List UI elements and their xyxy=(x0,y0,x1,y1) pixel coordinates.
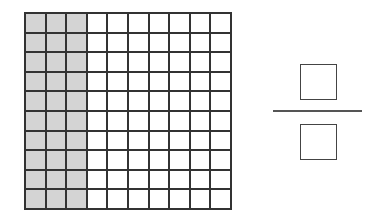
grid-cell xyxy=(87,111,108,131)
grid-cell xyxy=(128,72,149,92)
grid-cell xyxy=(210,131,231,151)
grid-cell-shaded xyxy=(46,33,67,53)
grid-cell xyxy=(190,13,211,33)
grid-cell xyxy=(128,170,149,190)
grid-cell-shaded xyxy=(66,13,87,33)
grid-cell-shaded xyxy=(25,189,46,209)
grid-cell-shaded xyxy=(46,91,67,111)
grid-cell-shaded xyxy=(66,72,87,92)
grid-cell xyxy=(149,33,170,53)
grid-cell xyxy=(107,111,128,131)
grid-cell-shaded xyxy=(66,52,87,72)
grid-cell xyxy=(169,170,190,190)
grid-cell xyxy=(87,131,108,151)
grid-cell-shaded xyxy=(46,150,67,170)
grid-cell-shaded xyxy=(25,150,46,170)
grid-cell-shaded xyxy=(66,91,87,111)
grid-cell xyxy=(169,189,190,209)
grid-cell xyxy=(87,33,108,53)
grid-cell xyxy=(190,111,211,131)
grid-cell xyxy=(149,170,170,190)
grid-cell xyxy=(128,33,149,53)
grid-cell xyxy=(169,131,190,151)
grid-cell-shaded xyxy=(66,150,87,170)
grid-cell xyxy=(169,72,190,92)
grid-cell xyxy=(87,52,108,72)
grid-cell-shaded xyxy=(25,13,46,33)
grid-cell xyxy=(87,72,108,92)
grid-cell xyxy=(107,33,128,53)
grid-cell xyxy=(190,91,211,111)
grid-cell xyxy=(149,150,170,170)
grid-cell xyxy=(128,13,149,33)
grid-cell-shaded xyxy=(66,131,87,151)
grid-cell xyxy=(107,170,128,190)
grid-cell-shaded xyxy=(25,52,46,72)
grid-cell xyxy=(210,111,231,131)
grid-cell xyxy=(128,131,149,151)
grid-cell xyxy=(190,189,211,209)
grid-cell xyxy=(149,189,170,209)
grid-cell xyxy=(87,189,108,209)
grid-cell xyxy=(169,13,190,33)
grid-cell xyxy=(87,170,108,190)
grid-cell xyxy=(107,150,128,170)
grid-cell xyxy=(87,150,108,170)
grid-cell xyxy=(190,52,211,72)
grid-cell xyxy=(87,91,108,111)
grid-cell xyxy=(210,72,231,92)
grid-cell xyxy=(210,170,231,190)
grid-cell-shaded xyxy=(66,189,87,209)
grid-cell xyxy=(149,13,170,33)
grid-cell xyxy=(169,150,190,170)
grid-cell xyxy=(169,111,190,131)
grid-cell xyxy=(107,52,128,72)
grid-cell xyxy=(87,13,108,33)
grid-cell xyxy=(190,72,211,92)
grid-cell xyxy=(190,131,211,151)
grid-cell-shaded xyxy=(25,170,46,190)
grid-cell xyxy=(190,150,211,170)
grid-cell-shaded xyxy=(66,170,87,190)
grid-cell xyxy=(128,91,149,111)
grid-cell-shaded xyxy=(46,189,67,209)
grid-cell xyxy=(149,52,170,72)
grid-cell xyxy=(107,189,128,209)
grid-cell xyxy=(128,189,149,209)
grid-cell xyxy=(169,91,190,111)
grid-cell xyxy=(149,131,170,151)
grid-cell-shaded xyxy=(46,13,67,33)
grid-cell xyxy=(210,13,231,33)
grid-cell-shaded xyxy=(46,131,67,151)
grid-cell xyxy=(190,33,211,53)
grid-cell-shaded xyxy=(25,72,46,92)
grid-cell xyxy=(107,131,128,151)
hundred-grid xyxy=(24,12,232,210)
grid-cell xyxy=(107,72,128,92)
numerator-input-box[interactable] xyxy=(300,64,337,100)
grid-cell-shaded xyxy=(25,91,46,111)
grid-cell xyxy=(210,150,231,170)
grid-cell xyxy=(107,91,128,111)
denominator-input-box[interactable] xyxy=(300,124,337,160)
grid-cell xyxy=(128,52,149,72)
grid-cell xyxy=(128,111,149,131)
grid-cell-shaded xyxy=(25,111,46,131)
grid-cell xyxy=(210,33,231,53)
grid-cell xyxy=(190,170,211,190)
fraction-bar xyxy=(273,110,362,112)
grid-cell-shaded xyxy=(66,33,87,53)
grid-cell xyxy=(169,52,190,72)
grid-cell-shaded xyxy=(66,111,87,131)
grid-cell xyxy=(149,111,170,131)
grid-cell xyxy=(149,72,170,92)
grid-cell xyxy=(210,52,231,72)
grid-cell-shaded xyxy=(46,72,67,92)
grid-cell-shaded xyxy=(25,33,46,53)
grid-cell-shaded xyxy=(25,131,46,151)
grid-cell xyxy=(210,189,231,209)
grid-cell xyxy=(210,91,231,111)
grid-cell-shaded xyxy=(46,52,67,72)
grid-cell xyxy=(149,91,170,111)
grid-cell xyxy=(107,13,128,33)
